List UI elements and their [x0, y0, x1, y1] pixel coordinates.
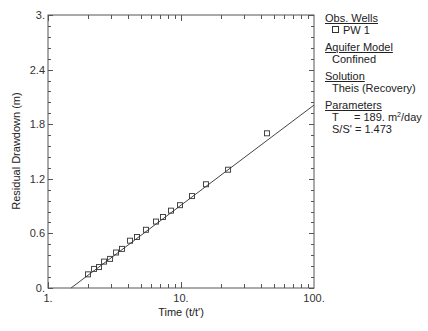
- data-point-marker: [264, 131, 269, 136]
- legend-solution-header: Solution: [325, 70, 422, 82]
- legend-aquifer-value: Confined: [325, 53, 422, 65]
- legend-aquifer-header: Aquifer Model: [325, 41, 422, 53]
- axis-ticks: [48, 15, 314, 289]
- legend-solution-value: Theis (Recovery): [325, 82, 422, 94]
- param-transmissivity: T= 189. m2/day: [325, 111, 422, 123]
- x-axis-title: Time (t/t'): [158, 306, 204, 318]
- legend-aquifer-model: Aquifer Model Confined: [325, 41, 422, 65]
- x-tick-labels: 1.10.100.: [43, 292, 324, 304]
- y-tick-label: 1.2: [30, 173, 45, 185]
- param-s-label: S/S': [332, 123, 352, 135]
- legend: Obs. Wells PW 1 Aquifer Model Confined S…: [325, 12, 422, 140]
- x-tick-label: 100.: [303, 292, 324, 304]
- open-square-marker-icon: [332, 26, 339, 33]
- param-t-value: = 189. m: [354, 111, 397, 123]
- legend-parameters-header: Parameters: [325, 99, 422, 111]
- y-tick-label: 0.6: [30, 227, 45, 239]
- y-tick-label: 3.: [36, 9, 45, 21]
- data-points: [86, 131, 270, 277]
- y-tick-labels: 0.0.61.21.82.43.: [30, 9, 45, 294]
- y-axis-title: Residual Drawdown (m): [10, 92, 22, 209]
- x-tick-label: 10.: [173, 292, 188, 304]
- y-tick-label: 2.4: [30, 64, 45, 76]
- param-t-label: T: [332, 111, 354, 123]
- legend-solution: Solution Theis (Recovery): [325, 70, 422, 94]
- legend-obs-wells: Obs. Wells PW 1: [325, 12, 422, 36]
- legend-item-pw1: PW 1: [325, 24, 422, 36]
- param-t-unit: /day: [401, 111, 422, 123]
- param-s-value: = 1.473: [355, 123, 392, 135]
- legend-parameters: Parameters T= 189. m2/day S/S' = 1.473: [325, 99, 422, 135]
- legend-obs-wells-header: Obs. Wells: [325, 12, 422, 24]
- x-tick-label: 1.: [43, 292, 52, 304]
- y-tick-label: 1.8: [30, 118, 45, 130]
- plot-frame: [48, 15, 314, 288]
- param-storativity-ratio: S/S' = 1.473: [325, 123, 422, 135]
- legend-obs-well-label: PW 1: [343, 24, 370, 36]
